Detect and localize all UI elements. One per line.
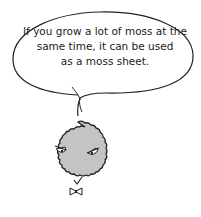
speech-line-2: same time, it can be used [20, 39, 190, 54]
speech-line-1: If you grow a lot of moss at the [20, 24, 190, 39]
mouth-check [74, 177, 82, 184]
speech-bubble-text: If you grow a lot of moss at the same ti… [20, 24, 190, 69]
bow-tie-icon [70, 188, 82, 195]
speech-bubble-tail [72, 87, 82, 112]
speech-line-3: as a moss sheet. [20, 54, 190, 69]
comic-panel: If you grow a lot of moss at the same ti… [0, 0, 201, 217]
moss-ball-character [55, 121, 107, 195]
